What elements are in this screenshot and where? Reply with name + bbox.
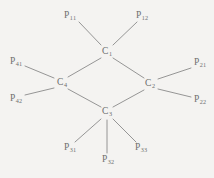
label-base: P xyxy=(10,93,15,103)
label-base: C xyxy=(145,78,152,88)
label-subscript: 2 xyxy=(152,82,155,89)
label-base: P xyxy=(136,10,141,20)
terminal-label-p42: P42 xyxy=(10,94,22,104)
bond-c4-c1 xyxy=(68,58,101,77)
bond-c4-p42 xyxy=(25,88,54,95)
label-subscript: 33 xyxy=(141,146,148,153)
label-subscript: 31 xyxy=(70,146,77,153)
node-label-c2: C2 xyxy=(145,79,155,89)
label-subscript: 32 xyxy=(108,158,115,165)
terminal-label-p32: P32 xyxy=(102,155,114,165)
bond-c3-c4 xyxy=(68,89,101,107)
label-subscript: 4 xyxy=(64,81,67,88)
terminal-edge-group xyxy=(25,22,191,153)
bond-c2-p21 xyxy=(158,68,191,79)
bond-c3-p33 xyxy=(113,119,136,142)
terminal-label-p11: P11 xyxy=(64,11,76,21)
label-subscript: 22 xyxy=(200,98,207,105)
label-subscript: 42 xyxy=(16,97,23,104)
label-subscript: 3 xyxy=(109,110,112,117)
terminal-label-p12: P12 xyxy=(136,11,148,21)
label-base: P xyxy=(194,57,199,67)
terminal-label-p22: P22 xyxy=(194,95,206,105)
bond-c1-c2 xyxy=(113,58,144,78)
label-base: P xyxy=(135,142,140,152)
label-base: C xyxy=(102,106,109,116)
bond-c2-p22 xyxy=(158,89,191,97)
label-subscript: 1 xyxy=(109,50,112,57)
bond-c4-p41 xyxy=(25,66,54,78)
label-base: C xyxy=(102,46,109,56)
node-label-c4: C4 xyxy=(57,78,67,88)
label-base: P xyxy=(194,94,199,104)
label-base: P xyxy=(64,142,69,152)
bond-c1-p12 xyxy=(113,22,137,45)
molecular-graph-figure: C1C2C3C4 P11P12P21P22P31P32P33P41P42 xyxy=(0,0,214,178)
ring-edge-group xyxy=(68,58,144,107)
terminal-label-p21: P21 xyxy=(194,58,206,68)
label-subscript: 12 xyxy=(142,14,149,21)
label-base: C xyxy=(57,77,64,87)
label-base: P xyxy=(64,10,69,20)
bond-c2-c3 xyxy=(113,90,144,107)
label-base: P xyxy=(10,56,15,66)
bond-c1-p11 xyxy=(79,22,101,45)
terminal-label-p33: P33 xyxy=(135,143,147,153)
label-subscript: 11 xyxy=(70,14,76,21)
label-subscript: 21 xyxy=(200,61,207,68)
terminal-label-p41: P41 xyxy=(10,57,22,67)
label-base: P xyxy=(102,154,107,164)
terminal-label-p31: P31 xyxy=(64,143,76,153)
node-label-c1: C1 xyxy=(102,47,112,57)
bond-c3-p31 xyxy=(75,119,101,142)
node-label-c3: C3 xyxy=(102,107,112,117)
graph-edges-canvas xyxy=(0,0,214,178)
label-subscript: 41 xyxy=(16,60,23,67)
